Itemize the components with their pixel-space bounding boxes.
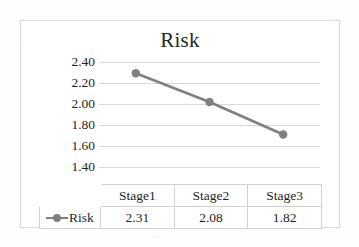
table-corner-cell bbox=[40, 185, 101, 207]
y-axis-tick: 1.60 bbox=[49, 139, 95, 153]
chart-frame: Risk 2.40 2.20 2.00 1.80 1.60 1.40 Stage… bbox=[20, 20, 340, 228]
y-axis-tick: 2.40 bbox=[49, 55, 95, 69]
y-axis-tick-labels: 2.40 2.20 2.00 1.80 1.60 1.40 bbox=[49, 62, 95, 187]
chart-title: Risk bbox=[21, 27, 339, 53]
table-cell-stage3-value: 1.82 bbox=[248, 207, 322, 229]
data-point-marker bbox=[205, 98, 213, 106]
y-axis-tick: 1.40 bbox=[49, 160, 95, 174]
legend-label: Risk bbox=[69, 211, 94, 225]
table-value-row: Risk 2.31 2.08 1.82 bbox=[40, 207, 322, 229]
table-header-stage3: Stage3 bbox=[248, 185, 322, 207]
plot-area bbox=[99, 62, 320, 187]
data-point-marker bbox=[132, 69, 140, 77]
data-table: Stage1 Stage2 Stage3 Risk 2.31 2.08 1.82 bbox=[39, 184, 322, 229]
table-cell-stage2-value: 2.08 bbox=[174, 207, 248, 229]
table-cell-stage1-value: 2.31 bbox=[101, 207, 175, 229]
legend-line-marker-icon bbox=[46, 213, 68, 223]
data-point-marker bbox=[279, 130, 287, 138]
legend-entry-risk: Risk bbox=[40, 207, 101, 229]
y-axis-tick: 1.80 bbox=[49, 118, 95, 132]
table-header-stage2: Stage2 bbox=[174, 185, 248, 207]
table-header-stage1: Stage1 bbox=[101, 185, 175, 207]
risk-series-plot bbox=[99, 62, 320, 187]
table-header-row: Stage1 Stage2 Stage3 bbox=[40, 185, 322, 207]
y-axis-tick: 2.00 bbox=[49, 97, 95, 111]
y-axis-tick: 2.20 bbox=[49, 76, 95, 90]
